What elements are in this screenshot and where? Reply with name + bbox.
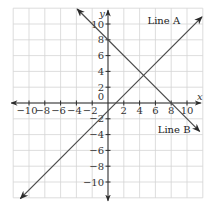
origin-label: 0	[98, 91, 104, 102]
y-tick-label: −8	[89, 161, 104, 172]
y-tick-label: −10	[83, 177, 104, 188]
y-tick-label: 6	[98, 50, 104, 61]
x-tick-label: −8	[35, 105, 50, 116]
x-tick-label: 8	[168, 105, 174, 116]
data-lines	[20, 9, 202, 199]
x-tick-label: 2	[121, 105, 127, 116]
label-line-b: Line B	[158, 124, 191, 135]
coordinate-plane: −10−8−6−4−2246810108642−2−4−6−8−100xy Li…	[0, 0, 208, 206]
x-tick-label: 4	[136, 105, 142, 116]
label-line-a: Line A	[148, 15, 181, 26]
y-tick-label: −4	[89, 129, 104, 140]
x-tick-label: −4	[67, 105, 82, 116]
y-tick-label: 8	[98, 34, 104, 45]
y-tick-label: 10	[91, 19, 104, 30]
y-axis-label: y	[98, 8, 105, 19]
y-tick-label: 4	[98, 66, 104, 77]
x-tick-label: 6	[152, 105, 158, 116]
x-tick-label: −10	[16, 105, 37, 116]
y-tick-label: −6	[89, 145, 104, 156]
line-labels: Line ALine B	[148, 15, 191, 135]
x-axis-label: x	[197, 91, 203, 102]
x-tick-label: −6	[51, 105, 66, 116]
